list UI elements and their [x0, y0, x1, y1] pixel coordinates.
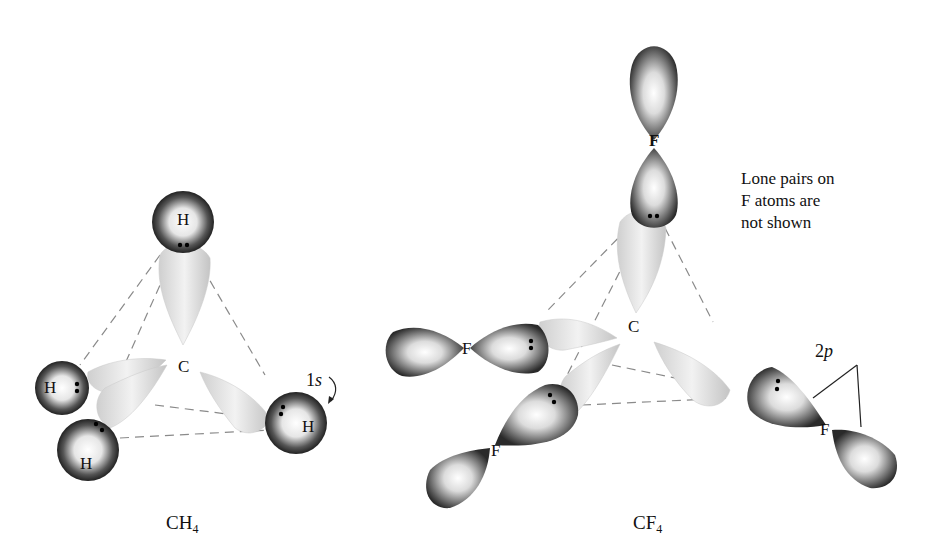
- h-label-left: H: [44, 379, 56, 396]
- h-label-top: H: [177, 211, 189, 228]
- f-top-inner-lobe: [630, 148, 677, 228]
- ch4-molecule: [35, 191, 336, 481]
- ch4-caption: CH4: [166, 513, 198, 535]
- orbital-diagram: [0, 0, 943, 560]
- h-label-bottom: H: [80, 455, 92, 472]
- f-lower-left-outer-lobe: [426, 448, 490, 508]
- f-lower-left-inner-lobe: [495, 384, 578, 446]
- orbital-label-2p: 2p: [815, 342, 833, 360]
- f-label-left: F: [462, 340, 471, 357]
- h-atom-right: [265, 392, 327, 454]
- ch4-hybrid-lobes: [88, 244, 270, 433]
- lone-pairs-note: Lone pairs on F atoms are not shown: [741, 168, 834, 234]
- cf4-caption: CF4: [633, 513, 662, 535]
- c-label-cf4: C: [628, 318, 639, 335]
- f-left-outer-lobe: [386, 328, 464, 377]
- f-left-inner-lobe: [470, 324, 549, 374]
- f-label-right: F: [820, 421, 829, 438]
- f-label-top: F: [649, 132, 659, 149]
- h-label-right: H: [302, 418, 314, 435]
- c-label-ch4: C: [178, 358, 189, 375]
- f-label-lower-left: F: [491, 442, 500, 459]
- f-right-outer-lobe: [832, 430, 897, 489]
- f-top-outer-lobe: [630, 46, 678, 140]
- cf4-hybrid-lobes: [539, 211, 730, 414]
- orbital-label-1s: 1s: [306, 371, 322, 389]
